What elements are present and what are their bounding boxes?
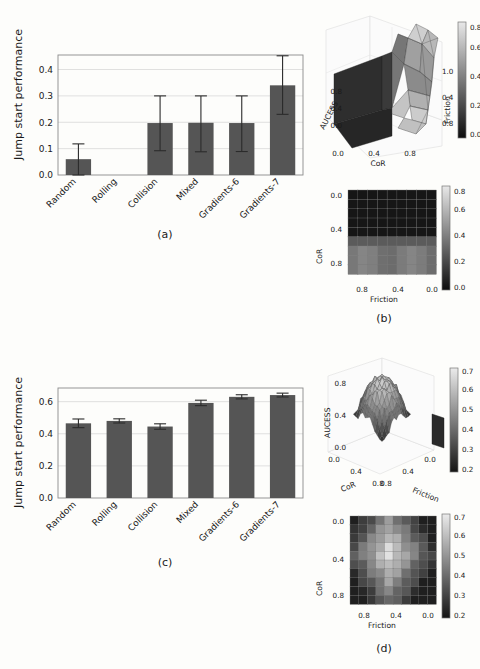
heatmap-cell [359, 534, 368, 543]
panel-d-surface-plot: 0.00.40.8 AUCESS 0.00.40.8 CoR 0.00.40.8… [312, 352, 480, 507]
d-cbticks-2: 0.4 [462, 425, 474, 434]
d-yticks-2: 0.8 [380, 479, 392, 488]
d-xticks-1: 0.4 [350, 467, 362, 476]
b2-xticks-0: 0.8 [356, 285, 368, 294]
d2-yticks-2: 0.8 [333, 591, 345, 600]
b-cbticks-2: 0.4 [470, 72, 480, 81]
b-xticks-0: 0.0 [332, 149, 344, 158]
xtick-label-5: Gradients-7 [238, 176, 282, 220]
b2-yticks-1: 0.4 [331, 225, 343, 234]
heatmap-cell [426, 218, 436, 228]
heatmap-cell [384, 560, 393, 569]
panel-d-caption: (d) [376, 642, 392, 655]
heatmap-cell [426, 190, 436, 200]
heatmap-cell [348, 237, 358, 247]
heatmap-cell [416, 237, 426, 247]
heatmap-cell [377, 237, 387, 247]
heatmap-cell [402, 534, 411, 543]
panel-a-ytick-labels: 0.00.10.20.30.4 [39, 65, 54, 180]
panel-b-surface-plot: 0.00.40.8 AUCESS 0.00.40.8 CoR 1.00.40.8… [312, 8, 480, 168]
d-cbticks-5: 0.7 [462, 367, 473, 376]
heatmap-cell [402, 542, 411, 551]
b2-yticks-2: 0.8 [331, 259, 343, 268]
ytick-label-2: 0.2 [39, 118, 53, 128]
heatmap-cell [407, 199, 417, 209]
heatmap-cell [359, 578, 368, 587]
panel-b-heatmap-cells [348, 190, 436, 274]
heatmap-cell [426, 246, 436, 256]
heatmap-cell [384, 534, 393, 543]
panel-a-bars [66, 85, 295, 175]
heatmap-cell [387, 246, 397, 256]
heatmap-cell [416, 227, 426, 237]
heatmap-cell [376, 542, 385, 551]
panel-a-gridlines [58, 70, 303, 149]
panel-c: Jump start performance 0.00.20.40.6 Rand… [0, 358, 318, 588]
panel-c-caption: (c) [158, 556, 173, 569]
panel-c-axes-frame [58, 388, 303, 498]
heatmap-cell [368, 209, 378, 219]
b2-yticks-0: 0.0 [331, 191, 343, 200]
heatmap-cell [368, 227, 378, 237]
b2-cbticks-2: 0.4 [454, 231, 466, 240]
heatmap-cell [387, 255, 397, 265]
heatmap-cell [367, 595, 376, 604]
heatmap-cell [350, 560, 359, 569]
panel-b-colorbar-ticks: 0.00.20.40.60.8 [470, 23, 480, 139]
d-yticks-0: 0.0 [424, 455, 436, 464]
ytick-label-3: 0.6 [39, 397, 54, 407]
heatmap-cell [384, 525, 393, 534]
heatmap-cell [407, 227, 417, 237]
heatmap-cell [376, 534, 385, 543]
panel-b-heatmap-ytick-labels: 0.00.40.8 [331, 191, 343, 268]
heatmap-cell [359, 525, 368, 534]
heatmap-cell [387, 227, 397, 237]
heatmap-cell [350, 516, 359, 525]
bar-2 [147, 427, 172, 498]
heatmap-cell [407, 190, 417, 200]
heatmap-cell [410, 595, 419, 604]
heatmap-cell [350, 569, 359, 578]
heatmap-cell [419, 525, 428, 534]
panel-d-heatmap-xtick-labels: 0.80.40.0 [358, 611, 434, 620]
heatmap-cell [359, 586, 368, 595]
panel-d-heatmap: 0.00.40.8 CoR 0.80.40.0 Friction 0.20.30… [312, 500, 480, 668]
panel-b-heatmap-xtick-labels: 0.80.40.0 [356, 285, 438, 294]
panel-d-colorbar: 0.20.30.40.50.60.7 [450, 367, 474, 474]
bar-0 [66, 423, 91, 498]
d2-cbticks-5: 0.7 [454, 513, 465, 522]
heatmap-cell [387, 265, 397, 275]
heatmap-cell [348, 227, 358, 237]
heatmap-cell [358, 246, 368, 256]
heatmap-cell [426, 265, 436, 275]
heatmap-cell [367, 534, 376, 543]
heatmap-cell [358, 265, 368, 275]
figure-root: Jump start performance 0.00.10.20.30.4 R… [0, 0, 480, 669]
panel-d-heatmap-cells [350, 516, 436, 604]
heatmap-cell [376, 586, 385, 595]
panel-b-ylabel: Friction [443, 96, 452, 124]
heatmap-cell [427, 542, 436, 551]
d-yticks-1: 0.4 [402, 467, 414, 476]
heatmap-cell [393, 569, 402, 578]
heatmap-cell [410, 586, 419, 595]
d2-xticks-2: 0.0 [422, 611, 434, 620]
heatmap-cell [368, 265, 378, 275]
xtick-label-1: Rolling [90, 499, 118, 527]
d-zticks-0: 0.0 [335, 443, 347, 452]
b-cbticks-1: 0.2 [470, 101, 480, 110]
heatmap-cell [407, 218, 417, 228]
heatmap-cell [350, 551, 359, 560]
b2-cbticks-1: 0.2 [454, 257, 465, 266]
d2-cbticks-4: 0.6 [454, 531, 466, 540]
heatmap-cell [377, 190, 387, 200]
d2-xticks-0: 0.8 [358, 611, 370, 620]
heatmap-cell [416, 218, 426, 228]
heatmap-cell [367, 516, 376, 525]
heatmap-cell [410, 516, 419, 525]
heatmap-cell [402, 569, 411, 578]
heatmap-cell [367, 569, 376, 578]
heatmap-cell [393, 578, 402, 587]
heatmap-cell [350, 586, 359, 595]
heatmap-cell [426, 199, 436, 209]
